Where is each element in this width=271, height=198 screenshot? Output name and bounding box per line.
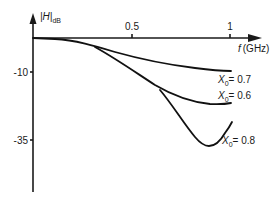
series-label-x0-0.7: X0= 0.7	[217, 74, 252, 87]
y-axis-arrow-icon	[30, 13, 37, 24]
x-tick-label: 1	[227, 21, 233, 32]
curve-x0-0.6	[95, 47, 231, 104]
y-tick-label: -35	[14, 135, 29, 146]
y-tick-label: -10	[14, 67, 29, 78]
x-axis-label: f(GHz)	[238, 43, 269, 54]
series-label-x0-0.6: X0= 0.6	[217, 90, 252, 103]
x-axis-arrow-icon	[248, 34, 262, 42]
series-label-x0-0.8: X0= 0.8	[221, 135, 256, 148]
x-tick-label: 0.5	[125, 21, 139, 32]
curve-x0-0.7	[33, 38, 231, 71]
y-axis-label: |H|dB	[40, 11, 61, 24]
chart-canvas: 0.5 1 -10 -35 |H|dB f(GHz) X0= 0.7 X0= 0…	[0, 0, 271, 198]
